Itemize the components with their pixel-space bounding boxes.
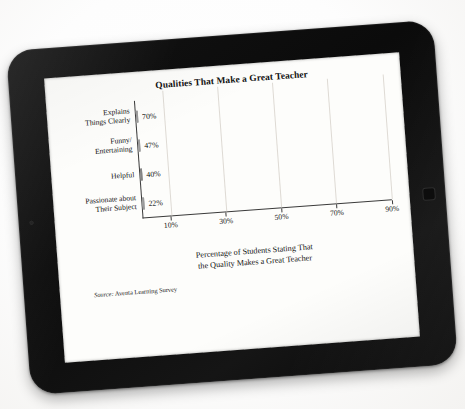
source-prefix: Source: [94, 290, 114, 298]
x-tick-label: 10% [164, 220, 179, 230]
gridline [162, 91, 172, 216]
category-label: Helpful [58, 171, 134, 185]
photo-scene: Qualities That Make a Great Teacher Expl… [0, 0, 465, 409]
bar-helpful [140, 168, 143, 181]
category-label: Funny/ Entertaining [56, 137, 133, 160]
source-text: Aventa Learning Survey [115, 285, 178, 297]
gridline [217, 87, 227, 212]
gridline [272, 83, 282, 208]
tablet-device: Qualities That Make a Great Teacher Expl… [6, 20, 458, 395]
bar-funny-entertaining [138, 139, 141, 152]
category-label: Passionate about Their Subject [60, 194, 137, 217]
bar-row: 47% [137, 130, 159, 161]
x-tick-label: 90% [385, 204, 400, 214]
bar-row: 70% [135, 101, 157, 132]
bar-value-label: 40% [146, 169, 161, 179]
plot-block: Explains Things Clearly Funny/ Entertain… [54, 82, 402, 235]
x-tick-label: 30% [219, 216, 234, 226]
gridline [382, 75, 392, 200]
gridline [327, 79, 337, 204]
home-button[interactable] [422, 187, 436, 201]
bar-row: 22% [141, 187, 163, 218]
bar-value-label: 47% [144, 140, 159, 150]
x-tick-label: 70% [330, 208, 345, 218]
category-label: Explains Things Clearly [54, 108, 131, 131]
tablet-bezel: Qualities That Make a Great Teacher Expl… [6, 20, 458, 395]
front-camera-icon [29, 220, 33, 224]
bar-value-label: 70% [142, 111, 157, 121]
category-axis-labels: Explains Things Clearly Funny/ Entertain… [54, 101, 140, 224]
bar-passionate-about-their-subject [142, 197, 145, 210]
plot-area: 70% 47% 40% [134, 83, 392, 219]
chart-figure: Qualities That Make a Great Teacher Expl… [44, 52, 420, 362]
x-tick-label: 50% [274, 212, 289, 222]
tablet-screen[interactable]: Qualities That Make a Great Teacher Expl… [44, 52, 420, 362]
bar-value-label: 22% [148, 198, 163, 208]
bar-explains-things-clearly [136, 110, 139, 123]
bar-row: 40% [139, 159, 161, 190]
category-label-line: Helpful [58, 171, 134, 185]
